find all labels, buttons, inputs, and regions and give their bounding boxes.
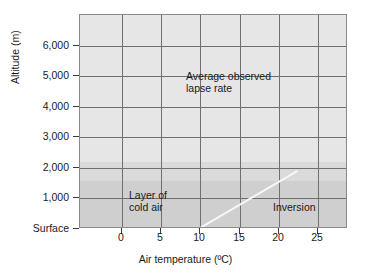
gridline-x-0 <box>122 15 123 227</box>
gridline-y-6000 <box>80 46 346 47</box>
xlabel-0: 0 <box>101 232 141 243</box>
annotation-cold-air: Layer of cold air <box>129 189 167 213</box>
ylabel-4000: 4,000 <box>43 101 69 112</box>
tick-y-4000 <box>73 106 79 107</box>
xlabel-5: 5 <box>140 232 180 243</box>
ylabel-6000: 6,000 <box>43 40 69 51</box>
tick-y-1000 <box>73 197 79 198</box>
ylabel-1000: 1,000 <box>43 192 69 203</box>
tick-y-6000 <box>73 45 79 46</box>
gridline-y-4000 <box>80 107 346 108</box>
gridline-x-15 <box>240 15 241 227</box>
ylabel-surface: Surface <box>33 223 69 234</box>
plot-area: Average observed lapse rate Layer of col… <box>79 14 347 228</box>
ylabel-3000: 3,000 <box>43 131 69 142</box>
ylabel-5000: 5,000 <box>43 70 69 81</box>
xlabel-20: 20 <box>258 232 298 243</box>
annotation-lapse-rate: Average observed lapse rate <box>186 70 271 94</box>
tick-y-5000 <box>73 75 79 76</box>
ylabel-2000: 2,000 <box>43 162 69 173</box>
xlabel-10: 10 <box>179 232 219 243</box>
xlabel-15: 15 <box>219 232 259 243</box>
gridline-y-1000 <box>80 198 346 199</box>
lapse-rate-inversion-chart: Average observed lapse rate Layer of col… <box>0 0 371 276</box>
gridline-y-2000 <box>80 168 346 169</box>
annotation-inversion: Inversion <box>273 201 316 213</box>
xlabel-25: 25 <box>297 232 337 243</box>
band-inversion-transition <box>80 162 346 181</box>
tick-y-3000 <box>73 136 79 137</box>
gridline-x-20 <box>279 15 280 227</box>
tick-y-surface <box>73 228 79 229</box>
tick-y-2000 <box>73 167 79 168</box>
gridline-x-25 <box>318 15 319 227</box>
x-axis-title: Air temperature (ºC) <box>0 253 371 265</box>
gridline-y-3000 <box>80 137 346 138</box>
y-axis-title: Altitude (m) <box>9 4 21 84</box>
gridline-x-10 <box>200 15 201 227</box>
